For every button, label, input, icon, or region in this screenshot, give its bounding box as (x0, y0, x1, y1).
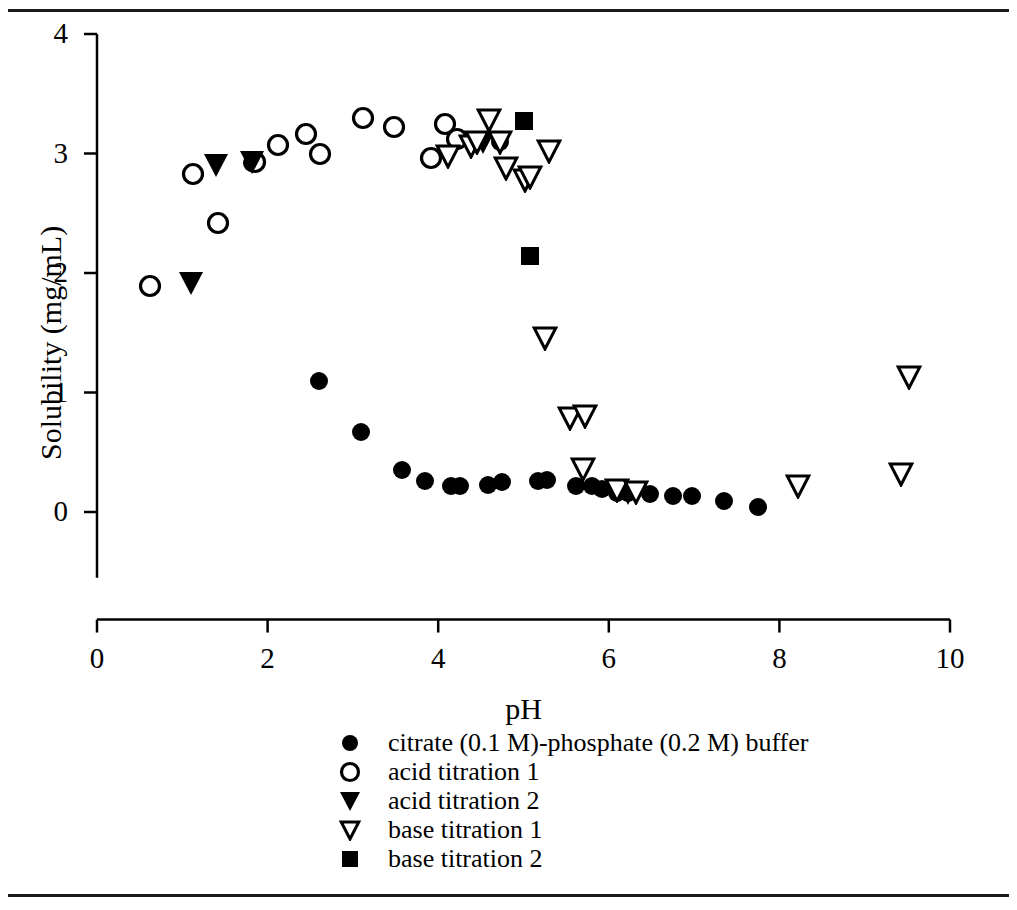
scatter-plot: 012340246810 pH Solubility (mg/mL) (0, 0, 1017, 700)
chart-legend: citrate (0.1 M)-phosphate (0.2 M) buffer… (330, 728, 890, 873)
y-tick-label: 4 (22, 19, 68, 48)
y-tick-label: 0 (22, 497, 68, 526)
axis-lines (0, 0, 1017, 700)
y-axis-title: Solubility (mg/mL) (34, 226, 68, 460)
legend-item[interactable]: base titration 2 (330, 844, 890, 873)
figure-container: 012340246810 pH Solubility (mg/mL) citra… (0, 0, 1017, 910)
legend-item-label: base titration 1 (388, 817, 543, 843)
x-axis-title: pH (424, 692, 624, 726)
legend-item[interactable]: acid titration 2 (330, 786, 890, 815)
open-circle-icon (330, 761, 370, 783)
legend-item-label: base titration 2 (388, 846, 543, 872)
legend-item-label: citrate (0.1 M)-phosphate (0.2 M) buffer (388, 730, 808, 756)
legend-item[interactable]: base titration 1 (330, 815, 890, 844)
x-tick-label: 8 (749, 644, 809, 673)
x-tick-label: 2 (238, 644, 298, 673)
x-tick-label: 0 (67, 644, 127, 673)
filled-triangle-down-icon (330, 790, 370, 812)
y-tick-label: 3 (22, 139, 68, 168)
x-tick-label: 4 (408, 644, 468, 673)
legend-item-label: acid titration 2 (388, 788, 540, 814)
x-tick-label: 6 (579, 644, 639, 673)
filled-circle-icon (330, 734, 370, 752)
legend-item[interactable]: acid titration 1 (330, 757, 890, 786)
legend-item[interactable]: citrate (0.1 M)-phosphate (0.2 M) buffer (330, 728, 890, 757)
open-triangle-down-icon (330, 819, 370, 841)
x-tick-label: 10 (920, 644, 980, 673)
filled-square-icon (330, 850, 370, 868)
legend-item-label: acid titration 1 (388, 759, 540, 785)
bottom-rule (8, 894, 1009, 897)
